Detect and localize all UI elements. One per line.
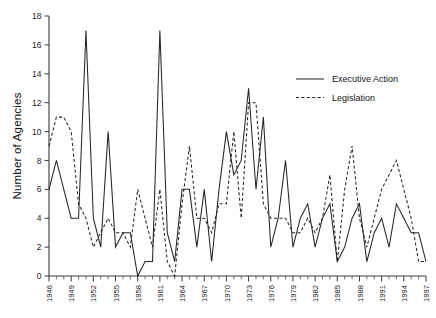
x-tick-label: 1994 xyxy=(400,285,409,302)
x-tick-label: 1949 xyxy=(67,285,76,302)
y-tick-group: 024681012141618 xyxy=(32,11,49,281)
legend-group: Executive ActionLegislation xyxy=(296,74,398,103)
x-tick-label: 1964 xyxy=(178,285,187,302)
y-tick-label: 12 xyxy=(32,98,42,108)
x-tick-label: 1976 xyxy=(267,285,276,302)
y-tick-label: 4 xyxy=(37,213,42,223)
y-tick-label: 6 xyxy=(37,184,42,194)
agencies-line-chart: Number of Agencies 024681012141618 19461… xyxy=(0,0,436,318)
x-tick-label: 1961 xyxy=(156,285,165,302)
x-tick-label: 1997 xyxy=(422,285,431,302)
x-tick-label: 1979 xyxy=(289,285,298,302)
x-tick-label: 1985 xyxy=(333,285,342,302)
legend-label: Executive Action xyxy=(332,74,398,84)
x-tick-label: 1946 xyxy=(45,285,54,302)
series-line-executive-action xyxy=(49,30,426,276)
y-tick-label: 14 xyxy=(32,69,42,79)
legend-label: Legislation xyxy=(332,93,375,103)
y-tick-label: 10 xyxy=(32,127,42,137)
y-tick-label: 18 xyxy=(32,11,42,21)
chart-container: Number of Agencies 024681012141618 19461… xyxy=(0,0,436,318)
y-tick-label: 0 xyxy=(37,271,42,281)
y-tick-label: 8 xyxy=(37,156,42,166)
x-tick-label: 1988 xyxy=(356,285,365,302)
x-tick-label: 1973 xyxy=(245,285,254,302)
series-group xyxy=(49,30,426,276)
y-tick-label: 2 xyxy=(37,242,42,252)
y-axis-title-group: Number of Agencies xyxy=(11,92,23,199)
x-tick-label: 1958 xyxy=(134,285,143,302)
x-tick-label: 1955 xyxy=(112,285,121,302)
x-tick-label: 1970 xyxy=(223,285,232,302)
x-tick-group: 1946194919521955195819611964196719701973… xyxy=(45,276,431,302)
x-tick-label: 1982 xyxy=(311,285,320,302)
x-tick-label: 1967 xyxy=(200,285,209,302)
x-tick-label: 1952 xyxy=(89,285,98,302)
y-tick-label: 16 xyxy=(32,40,42,50)
y-axis-title: Number of Agencies xyxy=(11,92,23,199)
x-tick-label: 1991 xyxy=(378,285,387,302)
